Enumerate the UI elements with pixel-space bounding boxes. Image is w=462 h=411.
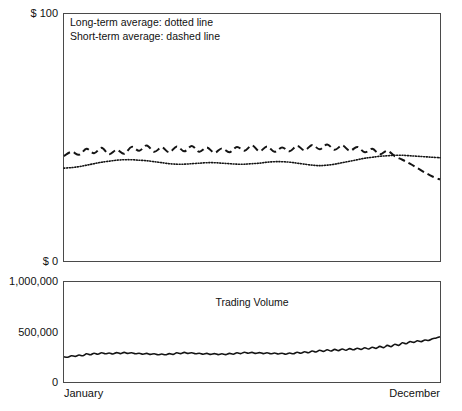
- volume-axis-top-tick: 1,000,000: [9, 275, 58, 287]
- stock-chart: $ 100 $ 0 1,000,000 500,000 0 January De…: [0, 0, 462, 411]
- x-axis-start-label: January: [64, 387, 104, 399]
- price-axis-bottom-tick: $ 0: [43, 255, 58, 267]
- price-panel-frame: [64, 14, 441, 262]
- trading-volume-line: [64, 337, 440, 357]
- chart-canvas: $ 100 $ 0 1,000,000 500,000 0 January De…: [0, 0, 462, 411]
- volume-series-group: [64, 337, 440, 357]
- legend-short-term-line: Short-term average: dashed line: [70, 30, 220, 42]
- x-axis-end-label: December: [389, 387, 440, 399]
- volume-axis-zero-tick: 0: [52, 376, 58, 388]
- price-series-group: [64, 144, 440, 179]
- trading-volume-label: Trading Volume: [215, 296, 288, 308]
- short-term-average-line: [64, 144, 440, 179]
- legend-long-term-line: Long-term average: dotted line: [70, 16, 213, 28]
- price-axis-top-tick: $ 100: [30, 7, 58, 19]
- long-term-average-line: [64, 155, 440, 168]
- volume-axis-mid-tick: 500,000: [18, 326, 58, 338]
